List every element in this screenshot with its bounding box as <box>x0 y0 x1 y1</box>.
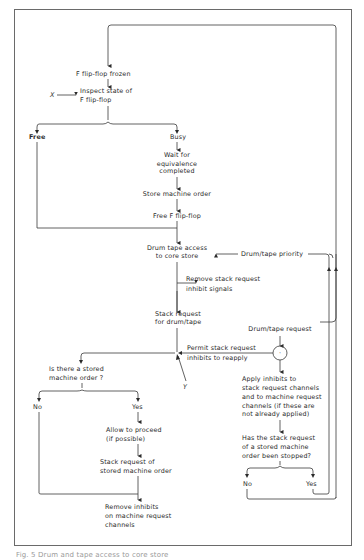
node-apply-line5: not already applied) <box>242 410 309 418</box>
node-permit-line2: inhibits to reapply <box>187 354 248 362</box>
node-allow-line1: Allow to proceed <box>106 426 162 434</box>
node-has-stopped-line2: of a stored machine <box>242 443 309 451</box>
node-inspect-line2: F flip-flop <box>80 96 112 104</box>
node-allow-line2: (if possible) <box>106 435 145 443</box>
yes-right-loop <box>313 489 329 494</box>
node-has-stopped-line1: Has the stack request <box>242 434 315 442</box>
priority-line-joint <box>329 254 333 258</box>
node-apply-line3: and to machine request <box>242 393 322 401</box>
junction-dot: · <box>279 349 281 357</box>
node-apply-line2: stack request channels <box>242 384 320 392</box>
node-stack-req-line1: Stack request <box>155 310 201 318</box>
node-permit-line1: Permit stack request <box>187 344 256 352</box>
no-path-line <box>39 412 138 494</box>
node-has-stopped-line3: order been stopped? <box>242 452 311 460</box>
figure-caption: Fig. 5 Drum and tape access to core stor… <box>16 551 169 559</box>
node-remove-inhibits-line1: Remove inhibits <box>105 503 159 511</box>
input-y: Y <box>183 383 188 391</box>
y-input-line <box>178 356 186 381</box>
label-no-right: No <box>243 480 252 488</box>
label-busy: Busy <box>170 133 186 141</box>
flowchart-canvas: F flip-flop frozen Inspect state of F fl… <box>0 0 364 560</box>
node-f-frozen: F flip-flop frozen <box>76 70 131 78</box>
node-inspect-line1: Inspect state of <box>80 87 133 95</box>
node-apply-line1: Apply inhibits to <box>242 375 296 383</box>
label-no-left: No <box>33 403 42 411</box>
branch-free-busy <box>37 106 177 131</box>
node-wait-line1: Wait for <box>164 151 190 159</box>
node-remove-stack-line2: inhibit signals <box>186 285 233 293</box>
node-remove-inhibits-line2: on machine request <box>105 512 172 520</box>
branch-no-yes-left <box>39 383 138 398</box>
node-remove-inhibits-line3: channels <box>105 521 135 529</box>
node-store-order: Store machine order <box>143 190 212 198</box>
node-wait-line3: completed <box>159 167 194 175</box>
node-stack-stored-line2: stored machine order <box>100 467 172 475</box>
node-apply-line4: channels (if these are <box>242 402 315 410</box>
node-remove-stack-line1: Remove stack request <box>186 275 261 283</box>
label-yes-left: Yes <box>131 403 143 411</box>
branch-no-yes-right <box>247 461 313 474</box>
node-stack-req-line2: for drum/tape <box>155 318 201 326</box>
node-is-stored-line1: Is there a stored <box>49 365 104 373</box>
label-drum-priority: Drum/tape priority <box>241 250 303 258</box>
node-stack-stored-line1: Stack request of <box>100 458 155 466</box>
branch-to-stored <box>81 353 175 361</box>
label-drum-tape-request: Drum/tape request <box>248 325 312 333</box>
node-drum-access-line2: to core store <box>156 252 198 260</box>
node-free-f: Free F flip-flop <box>153 212 201 220</box>
label-yes-right: Yes <box>305 480 317 488</box>
node-is-stored-line2: machine order ? <box>49 374 103 382</box>
figure-frame <box>15 10 352 546</box>
label-free: Free <box>29 133 46 141</box>
input-x: X <box>49 91 55 99</box>
node-drum-access-line1: Drum tape access <box>147 244 208 252</box>
